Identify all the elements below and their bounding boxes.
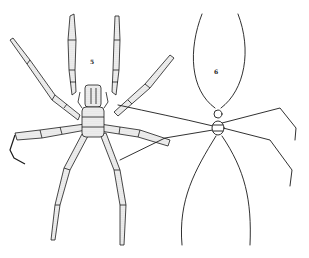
illustration-canvas: 5 6: [0, 0, 309, 258]
sea-spider-figure-5: [10, 14, 174, 245]
sea-spider-figure-6: [118, 14, 296, 245]
sea-spider-illustration: [0, 0, 309, 258]
figure-5-label: 5: [90, 58, 94, 65]
figure-6-label: 6: [214, 68, 218, 75]
